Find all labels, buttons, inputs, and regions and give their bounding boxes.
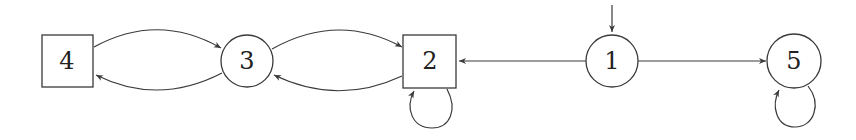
edge-2-to-3: [274, 75, 402, 91]
node-4-label: 4: [59, 47, 74, 75]
node-2-label: 2: [422, 47, 437, 75]
node-5-label: 5: [786, 47, 801, 75]
node-4: 4: [42, 35, 93, 87]
state-diagram: 4 3 2 1 5: [0, 0, 856, 140]
node-1-label: 1: [604, 47, 619, 75]
node-1: 1: [586, 35, 638, 87]
node-5: 5: [767, 34, 821, 88]
edge-4-to-3: [94, 30, 221, 48]
node-3-label: 3: [239, 47, 254, 75]
node-2: 2: [403, 35, 456, 88]
edge-3-to-2: [272, 30, 402, 49]
edge-2-self-loop: [410, 89, 452, 128]
edge-5-self-loop: [775, 86, 815, 127]
node-3: 3: [221, 35, 273, 87]
edge-3-to-4: [96, 73, 222, 90]
